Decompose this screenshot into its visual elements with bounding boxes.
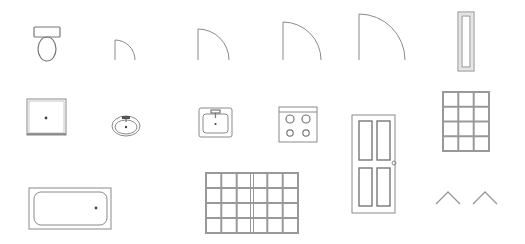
door-swing-large-icon[interactable] — [283, 22, 321, 60]
floor-plan-symbols-canvas — [0, 0, 525, 244]
window-6x4-icon[interactable] — [206, 173, 298, 233]
cooktop-icon[interactable] — [279, 107, 317, 142]
door-swing-medium-icon[interactable] — [198, 29, 229, 60]
shower-icon[interactable] — [27, 99, 66, 135]
square-sink-icon[interactable] — [199, 108, 232, 137]
narrow-window-icon[interactable] — [458, 12, 474, 71]
door-swing-xlarge-icon[interactable] — [359, 14, 405, 60]
window-3x4-icon[interactable] — [443, 92, 489, 151]
door-swing-small-icon[interactable] — [115, 40, 135, 60]
oval-sink-icon[interactable] — [112, 116, 140, 136]
roof-pitch-icon[interactable] — [436, 192, 497, 204]
bathtub-icon[interactable] — [29, 188, 111, 229]
panel-door-icon[interactable] — [352, 115, 396, 213]
toilet-icon[interactable] — [34, 27, 60, 61]
